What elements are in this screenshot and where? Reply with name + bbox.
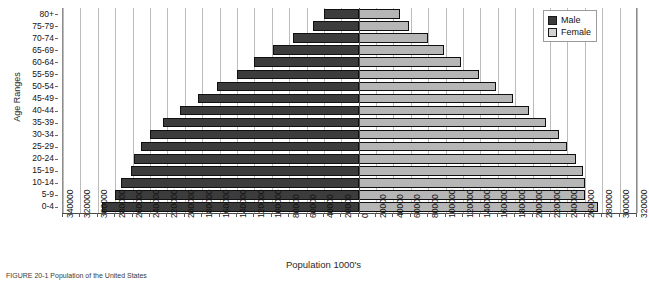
x-axis-label-0: 0 — [361, 213, 370, 218]
pyramid-row — [63, 106, 637, 116]
x-axis-label-20000: 20000 — [344, 194, 353, 218]
x-axis-tick — [166, 213, 167, 217]
x-axis-tick — [636, 213, 637, 217]
pyramid-row — [63, 70, 637, 80]
y-axis-label-60-64: 60-64 — [32, 58, 54, 67]
pyramid-row — [63, 130, 637, 140]
pyramid-row — [63, 94, 637, 104]
y-axis-label-80+: 80+ — [40, 10, 54, 19]
y-axis-label-75-79: 75-79 — [32, 22, 54, 31]
x-axis-label-80000: 80000 — [431, 194, 440, 218]
x-axis-tick — [584, 213, 585, 217]
x-axis-tick — [358, 213, 359, 217]
x-axis-title: Population 1000's — [0, 259, 647, 270]
x-axis-tick — [479, 213, 480, 217]
x-axis-label-220000: 220000 — [170, 190, 179, 218]
y-axis-tick — [55, 159, 58, 160]
y-axis-label-45-49: 45-49 — [32, 94, 54, 103]
bar-male-35-39 — [163, 118, 359, 128]
bar-male-45-49 — [198, 94, 359, 104]
bar-female-30-34 — [359, 130, 559, 140]
x-axis-label-160000: 160000 — [500, 190, 509, 218]
pyramid-row — [63, 82, 637, 92]
x-axis-tick — [619, 213, 620, 217]
bar-male-15-19 — [131, 166, 359, 176]
x-axis-label-40000: 40000 — [326, 194, 335, 218]
y-axis-label-20-24: 20-24 — [32, 154, 54, 163]
y-axis-tick — [55, 123, 58, 124]
x-axis-label-260000: 260000 — [135, 190, 144, 218]
bar-female-80+ — [359, 9, 401, 19]
y-axis-label-25-29: 25-29 — [32, 142, 54, 151]
y-axis-tick — [55, 98, 58, 99]
y-axis-tick — [55, 171, 58, 172]
bar-female-40-44 — [359, 106, 529, 116]
bar-male-40-44 — [180, 106, 358, 116]
x-axis-label-140000: 140000 — [483, 190, 492, 218]
x-axis-tick — [201, 213, 202, 217]
x-axis-tick — [271, 213, 272, 217]
x-axis-label-220000: 220000 — [553, 190, 562, 218]
y-axis-tick — [55, 86, 58, 87]
bar-female-45-49 — [359, 94, 514, 104]
pyramid-row — [63, 154, 637, 164]
x-axis-tick — [323, 213, 324, 217]
y-axis-labels: 0-45-910-1415-1920-2425-2930-3435-3940-4… — [18, 8, 58, 213]
bar-female-75-79 — [359, 21, 409, 31]
x-axis-tick — [236, 213, 237, 217]
y-axis-tick — [55, 14, 58, 15]
bar-male-55-59 — [237, 70, 359, 80]
y-axis-label-15-19: 15-19 — [32, 166, 54, 175]
x-axis-tick — [79, 213, 80, 217]
bar-male-10-14 — [121, 178, 358, 188]
x-axis-label-280000: 280000 — [605, 190, 614, 218]
bar-male-80+ — [324, 9, 359, 19]
y-axis-tick — [55, 135, 58, 136]
x-axis-label-260000: 260000 — [587, 190, 596, 218]
x-axis-tick — [62, 213, 63, 217]
y-axis-label-40-44: 40-44 — [32, 106, 54, 115]
x-axis-label-280000: 280000 — [118, 190, 127, 218]
pyramid-row — [63, 45, 637, 55]
bar-male-20-24 — [134, 154, 358, 164]
x-axis-label-120000: 120000 — [257, 190, 266, 218]
bar-female-15-19 — [359, 166, 583, 176]
legend-item-male: Male — [548, 14, 591, 26]
x-axis-tick — [253, 213, 254, 217]
y-axis-tick — [55, 195, 58, 196]
x-axis-label-80000: 80000 — [292, 194, 301, 218]
x-axis-tick — [288, 213, 289, 217]
x-axis-tick — [566, 213, 567, 217]
x-axis-tick — [445, 213, 446, 217]
gridline — [637, 8, 638, 213]
bar-male-75-79 — [313, 21, 358, 31]
bar-male-50-54 — [217, 82, 359, 92]
bar-female-35-39 — [359, 118, 546, 128]
legend-label-male: Male — [561, 15, 581, 25]
x-axis-label-140000: 140000 — [239, 190, 248, 218]
bar-female-60-64 — [359, 57, 462, 67]
x-axis-tick — [306, 213, 307, 217]
pyramid-row — [63, 178, 637, 188]
x-axis-tick — [601, 213, 602, 217]
pyramid-row — [63, 57, 637, 67]
y-axis-label-65-69: 65-69 — [32, 46, 54, 55]
y-axis-label-35-39: 35-39 — [32, 118, 54, 127]
bar-female-20-24 — [359, 154, 576, 164]
x-axis-tick — [132, 213, 133, 217]
y-axis-label-50-54: 50-54 — [32, 82, 54, 91]
x-axis-tick — [462, 213, 463, 217]
x-axis-label-60000: 60000 — [413, 194, 422, 218]
x-axis-tick — [497, 213, 498, 217]
y-axis-label-30-34: 30-34 — [32, 130, 54, 139]
x-axis-tick — [114, 213, 115, 217]
legend-swatch-female-icon — [548, 28, 557, 37]
x-axis-tick — [184, 213, 185, 217]
pyramid-row — [63, 166, 637, 176]
y-axis-label-10-14: 10-14 — [32, 178, 54, 187]
x-axis-label-120000: 120000 — [466, 190, 475, 218]
x-axis-tick — [375, 213, 376, 217]
pyramid-row — [63, 118, 637, 128]
x-axis-label-60000: 60000 — [309, 194, 318, 218]
x-axis-tick — [549, 213, 550, 217]
